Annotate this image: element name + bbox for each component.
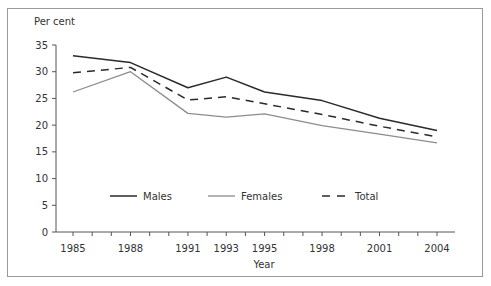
y-tick-label: 10	[35, 173, 48, 184]
y-axis-title: Per cent	[34, 16, 75, 27]
series-line-total	[73, 67, 437, 136]
y-tick-label: 20	[35, 120, 48, 131]
y-tick-label: 15	[35, 146, 48, 157]
series-line-females	[73, 72, 437, 143]
x-tick-label: 1998	[309, 243, 334, 254]
legend-label-females: Females	[241, 191, 282, 202]
legend-label-males: Males	[143, 191, 172, 202]
y-tick-label: 5	[42, 200, 48, 211]
x-tick-label: 2001	[367, 243, 392, 254]
series-line-males	[73, 56, 437, 131]
y-tick-label: 35	[35, 40, 48, 51]
x-tick-label: 1995	[252, 243, 277, 254]
x-tick-label: 1988	[118, 243, 143, 254]
x-tick-label: 2004	[424, 243, 449, 254]
x-tick-label: 1993	[214, 243, 239, 254]
x-tick-label: 1991	[175, 243, 200, 254]
y-tick-label: 30	[35, 66, 48, 77]
x-axis-title: Year	[252, 259, 275, 270]
line-chart: 0510152025303519851988199119931995199820…	[0, 0, 491, 286]
y-tick-label: 0	[42, 227, 48, 238]
legend-label-total: Total	[354, 191, 378, 202]
y-tick-label: 25	[35, 93, 48, 104]
x-tick-label: 1985	[60, 243, 85, 254]
